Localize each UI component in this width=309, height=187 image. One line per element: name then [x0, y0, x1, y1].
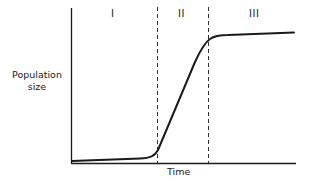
x-axis-label: Time [167, 166, 190, 177]
growth-chart [0, 0, 309, 187]
growth-curve [72, 33, 294, 162]
